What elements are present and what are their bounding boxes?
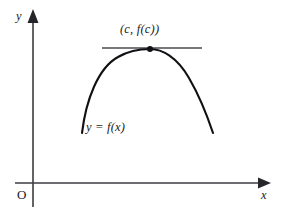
function-label: y = f(x) bbox=[86, 121, 125, 134]
critical-point-dot bbox=[147, 46, 153, 52]
x-axis-label: x bbox=[261, 189, 267, 202]
calculus-diagram-figure: y x O (c, f(c)) y = f(x) bbox=[0, 0, 281, 214]
y-axis-arrow-icon bbox=[28, 9, 39, 23]
x-axis-arrow-icon bbox=[258, 178, 271, 189]
origin-label: O bbox=[17, 188, 26, 201]
y-axis-label: y bbox=[16, 10, 22, 23]
critical-point-label: (c, f(c)) bbox=[120, 23, 159, 36]
